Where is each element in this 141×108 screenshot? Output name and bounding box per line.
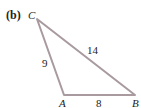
vertex-label-b: B [132,98,139,108]
side-label-ac: 9 [42,58,48,69]
part-label: (b) [6,9,21,21]
vertex-label-a: A [59,98,66,108]
triangle-shape [0,0,141,108]
side-label-ab: 8 [96,98,102,108]
triangle-diagram: (b) C A B 9 14 8 [0,0,141,108]
side-label-cb: 14 [87,45,98,56]
vertex-label-c: C [28,10,35,21]
